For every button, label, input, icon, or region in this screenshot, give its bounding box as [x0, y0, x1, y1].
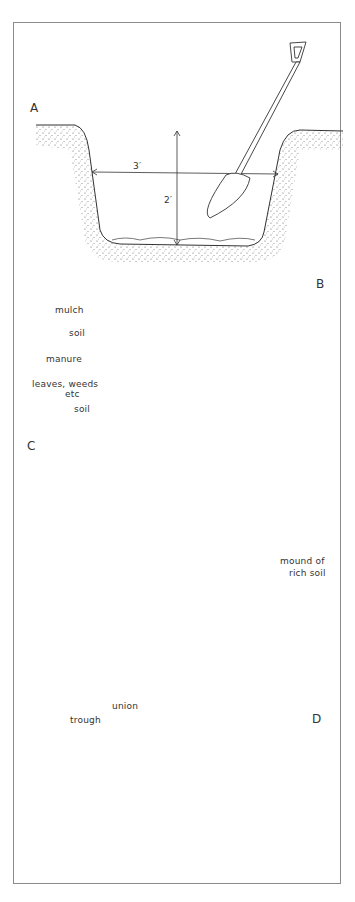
trough-label: trough — [70, 715, 101, 725]
mound-label-line2: rich soil — [289, 568, 326, 578]
layer-label-leaves: leaves, weeds — [32, 379, 98, 389]
panel-a — [36, 42, 343, 262]
union-label: union — [112, 701, 138, 711]
panel-letter-d: D — [312, 712, 321, 726]
width-label: 3′ — [133, 161, 141, 171]
layer-label-mulch: mulch — [55, 305, 84, 315]
depth-label: 2′ — [164, 195, 172, 205]
panel-letter-b: B — [316, 277, 324, 291]
layer-label-soil-bottom: soil — [74, 404, 90, 414]
layer-label-manure: manure — [46, 354, 82, 364]
panel-letter-a: A — [30, 101, 38, 115]
layer-label-soil-top: soil — [69, 328, 85, 338]
panel-letter-c: C — [27, 439, 35, 453]
planting-illustration — [0, 0, 355, 902]
layer-label-leaves-etc: etc — [65, 389, 80, 399]
mound-label-line1: mound of — [280, 556, 325, 566]
